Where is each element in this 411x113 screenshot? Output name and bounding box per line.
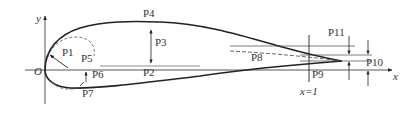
airfoil-lower-surface: [45, 61, 342, 88]
label-p9: P9: [312, 68, 324, 80]
label-p10: P10: [366, 56, 384, 68]
camber-line-dashed: [230, 51, 342, 61]
label-p11: P11: [328, 26, 345, 38]
airfoil-diagram: y x O x=1 P1 P2 P3 P4 P5 P6 P7 P8 P9 P10…: [0, 0, 411, 113]
p7-tick: [80, 82, 84, 86]
label-p2: P2: [143, 66, 155, 78]
label-p1: P1: [62, 46, 74, 58]
x-axis-label: x: [392, 70, 398, 82]
y-axis-label: y: [35, 12, 41, 24]
label-p5: P5: [81, 52, 93, 64]
label-p4: P4: [143, 7, 155, 19]
label-p8: P8: [251, 51, 263, 63]
label-p7: P7: [82, 87, 94, 99]
label-p3: P3: [155, 36, 167, 48]
x-equals-1-label: x=1: [299, 85, 318, 97]
origin-label: O: [34, 65, 42, 77]
label-p6: P6: [92, 68, 104, 80]
